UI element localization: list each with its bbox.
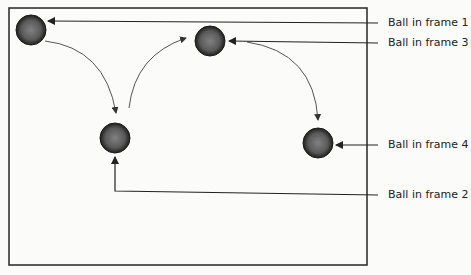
ball-frame-2 (100, 123, 130, 153)
motion-arc-2-to-3 (129, 38, 186, 108)
label-frame-1: Ball in frame 1 (388, 16, 469, 29)
label-frame-2: Ball in frame 2 (388, 188, 469, 201)
label-frame-3: Ball in frame 3 (388, 36, 469, 49)
ball-frame-3 (195, 26, 225, 56)
callout-line-frame-2 (115, 157, 378, 195)
motion-arc-1-to-2 (45, 41, 116, 113)
callout-line-frame-1 (48, 21, 378, 23)
ball-frame-1 (16, 15, 46, 45)
ball-frame-4 (303, 128, 333, 158)
diagram-canvas: Ball in frame 1 Ball in frame 3 Ball in … (0, 0, 471, 275)
motion-arc-3-to-4 (247, 42, 318, 120)
label-frame-4: Ball in frame 4 (388, 138, 469, 151)
